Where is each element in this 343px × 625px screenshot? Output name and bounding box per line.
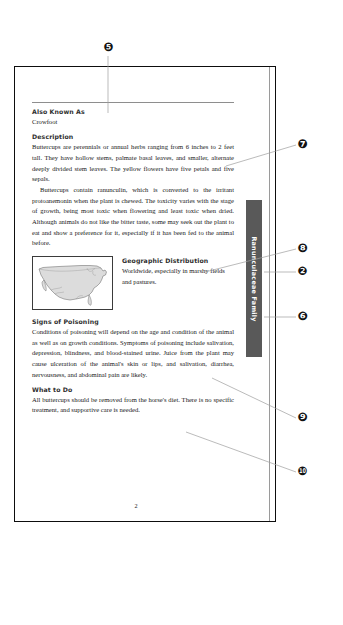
side-thumb-tab: Ranunculaceae Family <box>246 200 262 357</box>
text-signs-of-poisoning: Conditions of poisoning will depend on t… <box>32 327 234 380</box>
text-also-known-as: Crowfoot <box>32 117 234 128</box>
united-states-map-icon <box>33 257 112 309</box>
geographic-distribution-text: Geographic Distribution Worldwide, espec… <box>122 256 234 288</box>
page-number: 2 <box>15 502 257 509</box>
callout-marker-6[interactable]: ❻ <box>297 311 308 322</box>
callout-marker-5[interactable]: ❺ <box>103 42 114 53</box>
page-gutter-rule <box>269 67 270 521</box>
text-what-to-do: All buttercups should be removed from th… <box>32 395 234 416</box>
document-page: Also Known As Crowfoot Description Butte… <box>14 66 276 522</box>
geographic-distribution-block: Geographic Distribution Worldwide, espec… <box>32 256 234 310</box>
page-content: Also Known As Crowfoot Description Butte… <box>32 102 234 416</box>
callout-marker-2[interactable]: ❷ <box>297 266 308 277</box>
section-divider-rule <box>32 102 234 103</box>
text-description-paragraph-1: Buttercups are perennials or annual herb… <box>32 142 234 185</box>
heading-what-to-do: What to Do <box>32 386 234 394</box>
callout-marker-9[interactable]: ❾ <box>297 412 308 423</box>
heading-signs-of-poisoning: Signs of Poisoning <box>32 318 234 326</box>
text-description-paragraph-2: Buttercups contain ranunculin, which is … <box>32 185 234 249</box>
callout-marker-7[interactable]: ❼ <box>297 139 308 150</box>
side-thumb-tab-label: Ranunculaceae Family <box>250 236 258 321</box>
callout-marker-10[interactable]: ❿ <box>297 466 308 477</box>
heading-also-known-as: Also Known As <box>32 108 234 116</box>
heading-geographic-distribution: Geographic Distribution <box>122 257 234 265</box>
us-distribution-map <box>32 256 113 310</box>
heading-description: Description <box>32 133 234 141</box>
callout-marker-8[interactable]: ❽ <box>297 243 308 254</box>
text-geographic-distribution: Worldwide, especially in marshy fields a… <box>122 266 234 287</box>
